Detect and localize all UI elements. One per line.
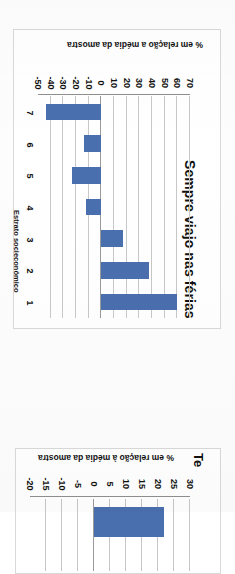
chart-main: Sempre viajo nas férias 706050403020100-… xyxy=(13,29,221,329)
gridline xyxy=(61,499,62,571)
bar xyxy=(86,199,101,215)
value-tick-label: -15 xyxy=(41,474,51,494)
value-tick-label: 60 xyxy=(172,73,182,93)
chart-main-category-axis-label: Estrato socieconômico xyxy=(12,210,21,293)
value-tick-label: -5 xyxy=(73,474,83,494)
value-tick-label: 40 xyxy=(147,73,157,93)
category-tick-label: 5 xyxy=(25,170,35,182)
gridline xyxy=(189,499,190,571)
gridline xyxy=(151,96,152,318)
gridline xyxy=(138,96,139,318)
value-tick-label: 70 xyxy=(185,73,195,93)
value-tick-label: 25 xyxy=(169,474,179,494)
value-tick-label: 0 xyxy=(89,474,99,494)
category-tick-label: 1 xyxy=(25,297,35,309)
category-tick-label: 6 xyxy=(25,139,35,151)
value-tick-label: -20 xyxy=(25,474,35,494)
gridline xyxy=(62,96,63,318)
value-tick-label: -30 xyxy=(58,73,68,93)
gridline xyxy=(75,96,76,318)
bar xyxy=(84,135,102,151)
gridline xyxy=(189,96,190,318)
value-tick-label: -10 xyxy=(84,73,94,93)
margin-caption-fragment: Gráfico 24 xyxy=(222,306,233,352)
chart-main-plot-area xyxy=(38,96,190,318)
bar xyxy=(46,104,102,120)
chart-main-axis-line xyxy=(38,94,190,95)
value-tick-label: 20 xyxy=(153,474,163,494)
bar xyxy=(101,262,149,278)
chart-partial: Te 302520151050-5-10-15-20 % em relação … xyxy=(15,448,221,574)
chart-partial-value-axis-label: % em relação à média da amostra xyxy=(38,453,174,463)
bar xyxy=(101,294,177,310)
chart-partial-axis-line xyxy=(30,496,190,497)
category-tick-label: 3 xyxy=(25,234,35,246)
value-tick-label: 30 xyxy=(185,474,195,494)
value-tick-label: 0 xyxy=(96,73,106,93)
bar xyxy=(72,167,101,183)
gridline xyxy=(77,499,78,571)
value-tick-label: 10 xyxy=(121,474,131,494)
value-tick-label: 30 xyxy=(134,73,144,93)
gridline xyxy=(45,499,46,571)
category-tick-label: 7 xyxy=(25,107,35,119)
value-tick-label: -50 xyxy=(33,73,43,93)
category-tick-label: 4 xyxy=(25,202,35,214)
value-tick-label: -40 xyxy=(46,73,56,93)
chart-main-value-axis-label: % em relação a média da amostra xyxy=(67,40,203,50)
value-tick-label: 15 xyxy=(137,474,147,494)
gridline xyxy=(176,96,177,318)
gridline xyxy=(50,96,51,318)
bar xyxy=(94,507,164,537)
chart-partial-plot-area xyxy=(30,499,190,571)
gridline xyxy=(126,96,127,318)
value-tick-label: -20 xyxy=(71,73,81,93)
gridline xyxy=(164,96,165,318)
value-tick-label: -10 xyxy=(57,474,67,494)
chart-partial-title: Te xyxy=(191,453,206,467)
category-tick-label: 2 xyxy=(25,265,35,277)
gridline xyxy=(113,96,114,318)
gridline xyxy=(173,499,174,571)
value-tick-label: 50 xyxy=(160,73,170,93)
value-tick-label: 5 xyxy=(105,474,115,494)
value-tick-label: 10 xyxy=(109,73,119,93)
value-tick-label: 20 xyxy=(122,73,132,93)
bar xyxy=(101,230,123,246)
